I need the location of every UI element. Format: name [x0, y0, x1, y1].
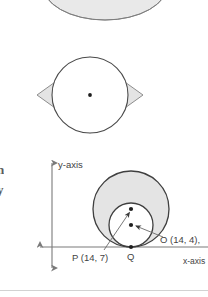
center-dot-p [129, 207, 133, 211]
center-dot-o [129, 223, 133, 227]
label-x-axis: x-axis [183, 257, 205, 266]
label-point-o: O (14, 4), [160, 235, 200, 245]
label-point-q: Q [127, 252, 134, 262]
page-bottom-rule [0, 290, 208, 291]
tangent-point-dot-q [129, 245, 133, 249]
clipped-text-fragment-1: n [0, 163, 4, 176]
clipped-text-fragment-2: y [0, 183, 4, 196]
label-point-p: P (14, 7) [72, 253, 108, 263]
label-y-axis: y-axis [58, 160, 83, 170]
page-root: y-axis x-axis P (14, 7) Q O (14, 4), n y [0, 0, 208, 297]
